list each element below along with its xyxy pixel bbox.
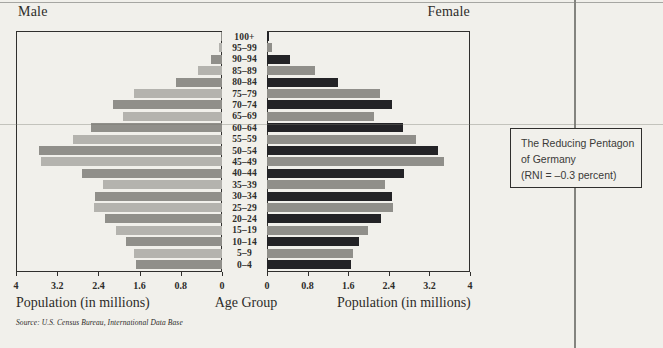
male-bar-0–4 <box>136 260 223 269</box>
female-bar-20–24 <box>267 214 381 223</box>
female-bar-15–19 <box>267 226 368 235</box>
age-label-30–34: 30–34 <box>222 191 267 201</box>
male-bar-65–69 <box>123 112 222 121</box>
age-group-labels: 100+95–9990–9485–8980–8475–7970–7465–696… <box>222 32 267 272</box>
male-bar-30–34 <box>95 192 222 201</box>
age-label-80–84: 80–84 <box>222 77 267 87</box>
male-axis-tick-1.6 <box>140 272 141 276</box>
annotation-line-2: of Germany <box>521 152 635 168</box>
male-bar-95–99 <box>219 43 222 52</box>
male-axis-tick-2.4 <box>98 272 99 276</box>
male-bar-10–14 <box>126 237 222 246</box>
male-bar-75–79 <box>134 89 222 98</box>
male-bar-55–59 <box>73 135 222 144</box>
annotation-line-1: The Reducing Pentagon <box>521 136 635 152</box>
female-bar-0–4 <box>267 260 351 269</box>
male-side-title: Male <box>18 4 48 20</box>
male-bar-90–94 <box>211 55 222 64</box>
male-bar-40–44 <box>82 169 222 178</box>
female-bar-50–54 <box>267 146 438 155</box>
male-bar-35–39 <box>103 180 223 189</box>
age-label-15–19: 15–19 <box>222 225 267 235</box>
age-label-25–29: 25–29 <box>222 203 267 213</box>
female-bar-10–14 <box>267 237 359 246</box>
female-bar-35–39 <box>267 180 385 189</box>
female-bar-70–74 <box>267 100 392 109</box>
annotation-line-3: (RNI = –0.3 percent) <box>521 168 635 184</box>
age-label-70–74: 70–74 <box>222 100 267 110</box>
male-axis-tick-0 <box>222 272 223 276</box>
age-label-75–79: 75–79 <box>222 89 267 99</box>
male-bar-5–9 <box>134 249 222 258</box>
age-label-0–4: 0–4 <box>222 260 267 270</box>
male-axis-tick-0.8 <box>181 272 182 276</box>
female-axis-tick-3.2 <box>429 272 430 276</box>
male-bars <box>16 32 222 272</box>
female-bar-25–29 <box>267 203 393 212</box>
age-label-10–14: 10–14 <box>222 237 267 247</box>
male-axis-tick-label-0.8: 0.8 <box>175 280 188 291</box>
female-axis-tick-label-3.2: 3.2 <box>423 280 436 291</box>
female-axis-title: Population (in millions) <box>337 295 471 311</box>
female-bar-45–49 <box>267 157 444 166</box>
population-pyramid-figure: Male Female 100+95–9990–9485–8980–8475–7… <box>0 0 663 348</box>
source-citation: Source: U.S. Census Bureau, Internationa… <box>16 318 183 327</box>
female-side-title: Female <box>267 4 470 20</box>
female-bars <box>267 32 470 272</box>
scan-artifact-line <box>0 124 663 125</box>
male-axis-tick-label-2.4: 2.4 <box>92 280 105 291</box>
female-bar-65–69 <box>267 112 374 121</box>
age-label-45–49: 45–49 <box>222 157 267 167</box>
female-axis-tick-1.6 <box>348 272 349 276</box>
age-label-5–9: 5–9 <box>222 248 267 258</box>
female-bar-40–44 <box>267 169 404 178</box>
female-axis-tick-label-0: 0 <box>265 280 270 291</box>
female-bar-85–89 <box>267 66 315 75</box>
male-bar-25–29 <box>94 203 222 212</box>
male-axis-title: Population (in millions) <box>16 295 150 311</box>
male-axis-tick-label-0: 0 <box>220 280 225 291</box>
female-axis-tick-label-1.6: 1.6 <box>342 280 355 291</box>
female-axis-tick-0.8 <box>308 272 309 276</box>
male-bar-50–54 <box>39 146 222 155</box>
male-bar-45–49 <box>41 157 222 166</box>
female-axis-tick-label-4: 4 <box>468 280 473 291</box>
male-bar-100+ <box>221 32 222 41</box>
age-label-55–59: 55–59 <box>222 134 267 144</box>
female-bar-95–99 <box>267 43 272 52</box>
age-label-65–69: 65–69 <box>222 111 267 121</box>
age-label-40–44: 40–44 <box>222 168 267 178</box>
male-bar-15–19 <box>116 226 222 235</box>
page-top-rule <box>0 2 663 3</box>
male-bar-70–74 <box>113 100 222 109</box>
age-label-100+: 100+ <box>222 32 267 42</box>
female-bar-30–34 <box>267 192 392 201</box>
age-group-axis-title: Age Group <box>190 295 302 311</box>
female-bar-75–79 <box>267 89 380 98</box>
female-bar-80–84 <box>267 78 338 87</box>
female-bar-100+ <box>267 32 269 41</box>
male-bar-20–24 <box>105 214 222 223</box>
age-label-35–39: 35–39 <box>222 180 267 190</box>
female-axis-tick-4 <box>470 272 471 276</box>
female-axis-tick-2.4 <box>389 272 390 276</box>
male-axis-tick-3.2 <box>57 272 58 276</box>
age-label-50–54: 50–54 <box>222 146 267 156</box>
age-label-95–99: 95–99 <box>222 43 267 53</box>
female-axis-tick-0 <box>267 272 268 276</box>
male-axis-tick-label-4: 4 <box>14 280 19 291</box>
male-axis-tick-4 <box>16 272 17 276</box>
male-bar-85–89 <box>198 66 222 75</box>
male-axis-tick-label-3.2: 3.2 <box>51 280 64 291</box>
female-bar-55–59 <box>267 135 416 144</box>
male-axis-tick-label-1.6: 1.6 <box>133 280 146 291</box>
female-bar-5–9 <box>267 249 353 258</box>
age-label-90–94: 90–94 <box>222 54 267 64</box>
annotation-box: The Reducing Pentagon of Germany (RNI = … <box>510 128 642 188</box>
age-label-20–24: 20–24 <box>222 214 267 224</box>
female-axis-tick-label-2.4: 2.4 <box>383 280 396 291</box>
female-axis-tick-label-0.8: 0.8 <box>301 280 314 291</box>
age-label-85–89: 85–89 <box>222 66 267 76</box>
female-bar-90–94 <box>267 55 290 64</box>
male-bar-80–84 <box>176 78 222 87</box>
